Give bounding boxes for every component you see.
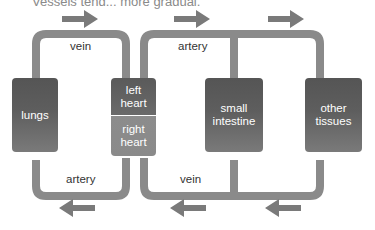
right-heart-label: right heart	[120, 123, 146, 149]
vessel-label-vein-top: vein	[70, 40, 91, 52]
other-tissues-label: other tissues	[316, 102, 352, 128]
vessel-label-artery-top: artery	[178, 40, 207, 52]
arrow-right-icon	[268, 10, 304, 28]
vessel-label-vein-bottom: vein	[180, 173, 201, 185]
small-intestine-box: small intestine	[205, 78, 263, 152]
lungs-label: lungs	[21, 109, 49, 122]
circulation-diagram: Vessels tend... more gradual. lungs	[0, 0, 375, 230]
arrow-left-icon	[170, 199, 206, 217]
other-tissues-box: other tissues	[305, 78, 362, 152]
arrow-left-icon	[59, 199, 95, 217]
small-intestine-label: small intestine	[213, 102, 256, 128]
vessel-label-artery-bottom: artery	[66, 173, 95, 185]
arrow-left-icon	[265, 199, 301, 217]
arrow-right-icon	[62, 10, 98, 28]
arrow-right-icon	[174, 10, 210, 28]
lungs-box: lungs	[12, 78, 58, 152]
left-heart-box: left heart	[111, 78, 156, 115]
left-heart-label: left heart	[120, 84, 146, 110]
right-heart-box: right heart	[111, 116, 156, 156]
